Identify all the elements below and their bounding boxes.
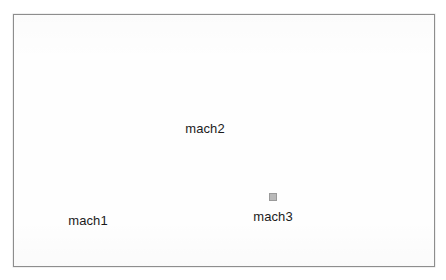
machine-node-label: mach1: [51, 213, 125, 228]
machine-canvas[interactable]: mach1 mach2 mach3: [13, 14, 435, 267]
machine-node-mach2[interactable]: mach2: [168, 99, 242, 136]
machine-node-label: mach2: [168, 121, 242, 136]
paper-tint-overlay: [14, 15, 434, 266]
machine-node-mach1[interactable]: mach1: [51, 191, 125, 228]
machine-node-label: mach3: [236, 209, 310, 224]
screenshot-root: mach1 mach2 mach3: [0, 0, 446, 280]
machine-node-mach3[interactable]: mach3: [236, 187, 310, 224]
selection-frame: [269, 193, 277, 201]
